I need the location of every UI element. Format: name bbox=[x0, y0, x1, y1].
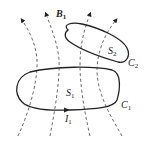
diagram-canvas: B1 S2 C2 S1 C1 I1 bbox=[0, 0, 151, 141]
label-s1: S1 bbox=[66, 87, 75, 100]
label-c2: C2 bbox=[128, 57, 139, 70]
label-c1: C1 bbox=[121, 99, 132, 112]
label-b1: B1 bbox=[55, 8, 67, 21]
field-line-2 bbox=[46, 14, 59, 136]
loop-c2 bbox=[65, 23, 128, 62]
field-line-3 bbox=[80, 14, 90, 136]
label-s2: S2 bbox=[108, 45, 117, 58]
current-arrow-icon bbox=[64, 108, 70, 113]
label-i1: I1 bbox=[64, 113, 72, 126]
